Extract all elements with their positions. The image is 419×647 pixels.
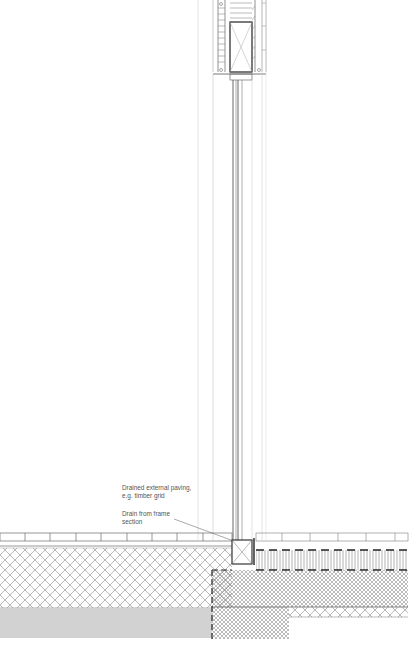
concrete-slab bbox=[212, 570, 408, 639]
annotation-line: e.g. timber grid bbox=[122, 492, 191, 500]
annotation-drained-paving: Drained external paving, e.g. timber gri… bbox=[122, 484, 191, 500]
window-head-section bbox=[213, 0, 266, 80]
ground-band bbox=[0, 608, 212, 638]
internal-floor bbox=[256, 533, 408, 570]
leader-line bbox=[174, 519, 231, 540]
glazing-unit bbox=[198, 0, 266, 540]
sill-frame bbox=[232, 538, 254, 565]
section-drawing bbox=[0, 0, 419, 647]
annotation-line: Drain from frame bbox=[122, 510, 170, 518]
external-paving bbox=[0, 533, 232, 548]
annotation-line: Drained external paving, bbox=[122, 484, 191, 492]
annotation-line: section bbox=[122, 518, 170, 526]
gravel-fill bbox=[0, 548, 232, 608]
annotation-drain-from-frame: Drain from frame section bbox=[122, 510, 170, 526]
